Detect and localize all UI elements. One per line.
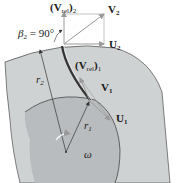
label-v2: V2 xyxy=(108,4,119,17)
label-vrel1: (Vrel)1 xyxy=(75,60,101,73)
label-r2: r2 xyxy=(36,74,44,87)
label-u1: U1 xyxy=(116,113,127,126)
label-r1: r1 xyxy=(84,120,92,133)
impeller-diagram: (Vrel)2 V2 β2 = 90° U2 r2 (Vrel)1 V1 U1 … xyxy=(0,0,177,183)
label-v1: V1 xyxy=(101,82,112,95)
label-beta2: β2 = 90° xyxy=(18,28,54,41)
label-u2: U2 xyxy=(109,39,120,52)
label-omega: ω xyxy=(84,149,92,160)
label-vrel2: (Vrel)2 xyxy=(50,2,76,15)
